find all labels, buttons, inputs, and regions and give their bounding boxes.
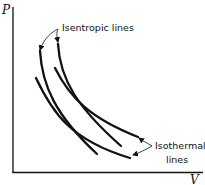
isothermal-curve-1 (36, 78, 130, 158)
diagram-svg: P V Isentropic lines Isothermal lines (0, 0, 205, 185)
pv-diagram: P V Isentropic lines Isothermal lines (0, 0, 205, 185)
isothermal-arrow-upper (139, 138, 152, 146)
isentropic-curve-2 (58, 44, 121, 146)
isothermal-label-line1: Isothermal (155, 140, 205, 151)
x-axis-label: V (190, 173, 200, 185)
isentropic-arrow-left (40, 29, 58, 50)
isentropic-arrow-right (57, 29, 58, 42)
isothermal-label-line2: lines (166, 154, 188, 165)
isothermal-arrow-lower (133, 146, 152, 155)
y-axis-label: P (1, 3, 11, 17)
isothermal-curve-2 (55, 68, 138, 137)
isentropic-label: Isentropic lines (62, 22, 134, 33)
